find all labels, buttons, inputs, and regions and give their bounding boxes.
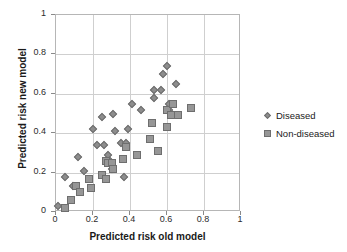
- data-point-diamond: [98, 113, 106, 121]
- data-point-diamond: [128, 99, 136, 107]
- data-point-diamond: [137, 105, 145, 113]
- x-axis-title: Predicted risk old model: [55, 231, 240, 242]
- x-tick-label: 0: [40, 214, 70, 224]
- data-point-square: [67, 196, 75, 204]
- diamond-marker-icon: [262, 113, 272, 118]
- gridline-horizontal: [56, 133, 239, 134]
- legend-label: Diseased: [276, 110, 316, 121]
- data-point-diamond: [100, 141, 108, 149]
- data-point-square: [154, 147, 162, 155]
- data-point-square: [61, 204, 69, 212]
- data-point-diamond: [109, 109, 117, 117]
- data-point-diamond: [74, 153, 82, 161]
- data-point-square: [148, 119, 156, 127]
- gridline-vertical: [130, 15, 131, 210]
- y-tick-mark: [51, 211, 55, 212]
- x-tick-label: 1: [225, 214, 255, 224]
- y-tick-mark: [51, 93, 55, 94]
- data-point-square: [122, 143, 130, 151]
- data-point-diamond: [172, 80, 180, 88]
- x-tick-label: 0.6: [151, 214, 181, 224]
- gridline-horizontal: [56, 94, 239, 95]
- y-tick-label: 1: [16, 8, 46, 18]
- data-point-square: [174, 111, 182, 119]
- y-tick-mark: [51, 53, 55, 54]
- x-tick-label: 0.4: [114, 214, 144, 224]
- data-point-square: [119, 155, 127, 163]
- legend-item-diseased: Diseased: [262, 108, 346, 123]
- legend-label: Non-diseased: [276, 128, 335, 139]
- square-marker-icon: [262, 130, 272, 137]
- data-point-square: [133, 151, 141, 159]
- legend-item-non-diseased: Non-diseased: [262, 126, 346, 141]
- y-tick-mark: [51, 14, 55, 15]
- data-point-diamond: [163, 62, 171, 70]
- data-point-square: [102, 175, 110, 183]
- x-tick-label: 0.2: [77, 214, 107, 224]
- chart-legend: Diseased Non-diseased: [262, 108, 346, 144]
- x-tick-label: 0.8: [188, 214, 218, 224]
- data-point-diamond: [111, 127, 119, 135]
- gridline-horizontal: [56, 54, 239, 55]
- plot-area: [55, 14, 240, 211]
- y-tick-mark: [51, 132, 55, 133]
- data-point-square: [163, 123, 171, 131]
- data-point-square: [109, 165, 117, 173]
- data-point-square: [187, 104, 195, 112]
- y-tick-mark: [51, 172, 55, 173]
- data-point-square: [146, 135, 154, 143]
- data-point-square: [76, 188, 84, 196]
- data-point-square: [87, 184, 95, 192]
- data-point-square: [169, 100, 177, 108]
- data-point-square: [85, 175, 93, 183]
- scatter-chart-figure: 00.20.40.60.81 00.20.40.60.81 Predicted …: [0, 0, 347, 252]
- y-axis-title: Predicted risk new model: [17, 19, 28, 199]
- gridline-vertical: [204, 15, 205, 210]
- y-tick-label: 0: [16, 205, 46, 215]
